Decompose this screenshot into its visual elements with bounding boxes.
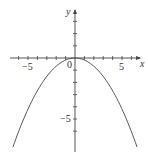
y-tick-label-neg5: −5 <box>60 113 71 124</box>
y-axis-label: y <box>65 6 71 17</box>
origin-label: 0 <box>67 59 72 70</box>
parabola-graph: y x 0 −5 5 −5 <box>0 0 148 156</box>
y-axis-arrow-icon <box>73 9 77 14</box>
x-axis-label: x <box>139 58 145 69</box>
x-tick-label-5: 5 <box>119 61 124 72</box>
x-tick-label-neg5: −5 <box>22 61 33 72</box>
